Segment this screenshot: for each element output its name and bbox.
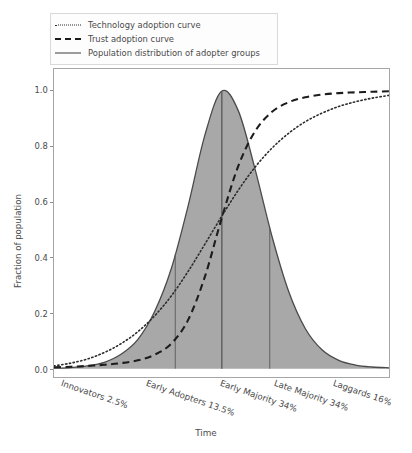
legend-item-label: Trust adoption curve bbox=[88, 34, 174, 44]
legend-item-technology-adoption-curve: Technology adoption curve bbox=[55, 18, 272, 32]
legend-item-trust-adoption-curve: Trust adoption curve bbox=[55, 32, 272, 46]
y-axis-tick: 0.0 bbox=[0, 365, 53, 375]
plot-area bbox=[53, 68, 390, 378]
plot-canvas bbox=[54, 69, 389, 377]
y-axis-tick: 0.4 bbox=[0, 253, 53, 263]
x-axis: Innovators 2.5% Early Adopters 13.5% Ear… bbox=[0, 378, 412, 426]
legend-item-population-distribution: Population distribution of adopter group… bbox=[55, 46, 272, 60]
dashed-line-icon bbox=[55, 34, 81, 44]
solid-line-icon bbox=[55, 48, 81, 58]
x-label-innovators: Innovators 2.5% bbox=[60, 378, 130, 410]
legend-item-label: Population distribution of adopter group… bbox=[88, 48, 260, 58]
chart-figure: Technology adoption curve Trust adoption… bbox=[0, 0, 412, 453]
y-axis-tick: 0.6 bbox=[0, 197, 53, 207]
dotted-line-icon bbox=[55, 20, 81, 30]
y-axis-tick: 0.2 bbox=[0, 309, 53, 319]
x-axis-title: Time bbox=[0, 428, 412, 438]
chart-legend: Technology adoption curve Trust adoption… bbox=[50, 13, 278, 65]
y-axis-tick: 1.0 bbox=[0, 85, 53, 95]
y-axis-tick: 0.8 bbox=[0, 141, 53, 151]
y-axis: Fraction of population 0.00.20.40.60.81.… bbox=[0, 68, 53, 378]
legend-item-label: Technology adoption curve bbox=[88, 20, 201, 30]
